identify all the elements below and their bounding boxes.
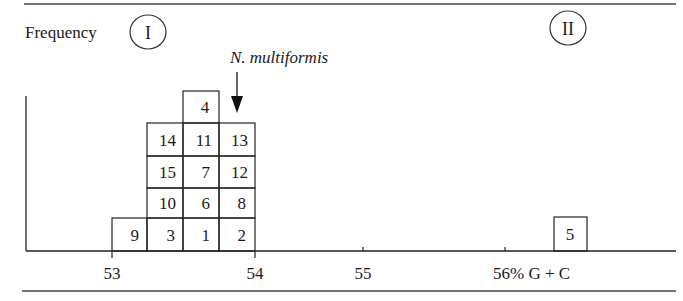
histogram-cells bbox=[112, 91, 587, 251]
x-ticks bbox=[112, 247, 505, 258]
group-1-marker: I bbox=[130, 15, 166, 49]
cell-labels: 9 3 1 2 10 6 8 15 7 12 14 11 13 4 5 bbox=[131, 98, 575, 245]
cell-label: 7 bbox=[202, 163, 211, 182]
cell-label: 2 bbox=[238, 226, 247, 245]
species-annotation: N. multiformis bbox=[229, 48, 329, 67]
cell-label: 6 bbox=[202, 194, 211, 213]
cell-9 bbox=[112, 218, 147, 251]
cell-label: 10 bbox=[159, 194, 176, 213]
arrow-down-icon bbox=[231, 72, 243, 113]
cell-label: 3 bbox=[167, 226, 176, 245]
group-1-label: I bbox=[145, 23, 151, 43]
cell-label: 12 bbox=[231, 163, 248, 182]
x-tick-53: 53 bbox=[104, 264, 121, 283]
cell-label: 8 bbox=[238, 194, 247, 213]
gc-content-histogram: Frequency I II N. multiformis 53 54 55 5… bbox=[0, 0, 683, 301]
x-tick-54: 54 bbox=[247, 264, 265, 283]
cell-label: 1 bbox=[202, 226, 211, 245]
group-2-label: II bbox=[562, 19, 574, 39]
group-2-marker: II bbox=[550, 11, 586, 45]
cell-label: 4 bbox=[201, 98, 210, 117]
y-axis-label: Frequency bbox=[25, 23, 97, 42]
x-tick-55: 55 bbox=[355, 264, 372, 283]
cell-label: 9 bbox=[131, 226, 140, 245]
cell-label: 15 bbox=[159, 163, 176, 182]
x-tick-56: 56% G + C bbox=[493, 264, 570, 283]
cell-label: 14 bbox=[159, 131, 177, 150]
cell-label: 5 bbox=[566, 225, 575, 244]
cell-label: 11 bbox=[196, 131, 212, 150]
cell-label: 13 bbox=[231, 131, 248, 150]
cell-3 bbox=[147, 218, 183, 251]
